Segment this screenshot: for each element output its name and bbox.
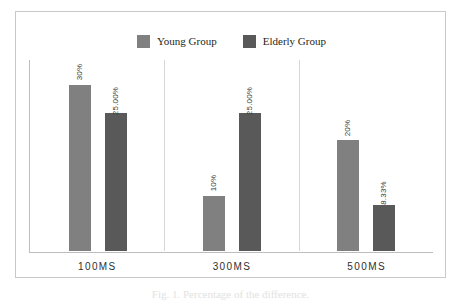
bar-slot-100ms-elderly: 25.00% — [105, 60, 127, 251]
bar-group-300ms: 10% 25.00% — [164, 60, 298, 251]
bar-group-100ms: 30% 25.00% — [31, 60, 164, 251]
legend-swatch-young — [137, 35, 150, 48]
x-tick-300ms: 300MS — [165, 256, 300, 278]
bar-value-500ms-elderly: 8.33% — [380, 181, 388, 205]
bar-500ms-young[interactable] — [337, 140, 359, 251]
bar-slot-300ms-elderly: 25.00% — [239, 60, 261, 251]
x-tick-500ms: 500MS — [299, 256, 434, 278]
bar-groups: 30% 25.00% 10% 25.00% — [31, 60, 433, 251]
x-axis-labels: 100MS 300MS 500MS — [30, 256, 434, 278]
bar-300ms-young[interactable] — [203, 196, 225, 251]
bar-slot-300ms-young: 10% — [203, 60, 225, 251]
bar-group-500ms: 20% 8.33% — [299, 60, 433, 251]
legend-label-young: Young Group — [157, 36, 217, 47]
bar-100ms-elderly[interactable] — [105, 113, 127, 251]
bar-value-300ms-young: 10% — [210, 175, 218, 192]
legend-entry-young: Young Group — [137, 35, 217, 48]
bar-value-300ms-elderly: 25.00% — [246, 87, 254, 115]
x-tick-100ms: 100MS — [30, 256, 165, 278]
plot-area: 30% 25.00% 10% 25.00% — [29, 60, 433, 253]
legend-label-elderly: Elderly Group — [263, 36, 326, 47]
chart-legend: Young Group Elderly Group — [16, 32, 447, 50]
legend-swatch-elderly — [243, 35, 256, 48]
bar-300ms-elderly[interactable] — [239, 113, 261, 251]
bar-slot-500ms-young: 20% — [337, 60, 359, 251]
figure: Young Group Elderly Group 30% 25.00% — [0, 0, 461, 301]
bar-100ms-young[interactable] — [69, 85, 91, 251]
bar-500ms-elderly[interactable] — [373, 205, 395, 251]
bar-slot-100ms-young: 30% — [69, 60, 91, 251]
bar-value-100ms-elderly: 25.00% — [112, 87, 120, 115]
chart-frame: Young Group Elderly Group 30% 25.00% — [15, 11, 446, 278]
figure-caption: Fig. 1. Percentage of the difference. — [0, 288, 461, 300]
bar-value-500ms-young: 20% — [344, 120, 352, 137]
bar-value-100ms-young: 30% — [76, 64, 84, 81]
bar-slot-500ms-elderly: 8.33% — [373, 60, 395, 251]
legend-entry-elderly: Elderly Group — [243, 35, 326, 48]
